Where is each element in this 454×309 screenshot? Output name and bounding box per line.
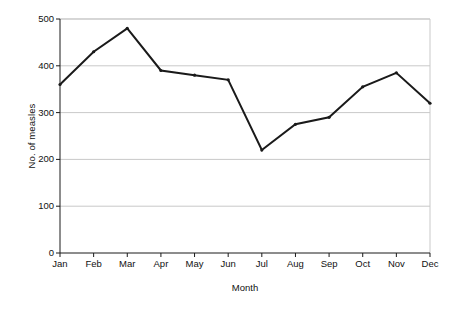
x-axis-tick-labels: JanFebMarAprMayJunJulAugSepOctNovDec [60, 258, 430, 272]
x-tick-label-jan: Jan [52, 258, 67, 270]
data-point-sep [327, 116, 330, 119]
x-tick-label-mar: Mar [119, 258, 135, 270]
data-point-jun [227, 78, 230, 81]
data-line-measles [60, 28, 430, 150]
x-tick-label-jul: Jul [256, 258, 268, 270]
x-tick-label-feb: Feb [85, 258, 101, 270]
data-point-feb [92, 50, 95, 53]
x-tick-label-sep: Sep [321, 258, 338, 270]
x-tick-label-nov: Nov [388, 258, 405, 270]
x-tick-label-jun: Jun [221, 258, 236, 270]
data-point-may [193, 74, 196, 77]
data-point-dec [428, 102, 431, 105]
data-point-mar [126, 27, 129, 30]
data-point-aug [294, 123, 297, 126]
data-point-jul [260, 148, 263, 151]
x-axis-title: Month [60, 282, 430, 293]
line-chart-figure: No. of measles 0100200300400500 JanFebMa… [0, 0, 454, 309]
x-tick-label-may: May [186, 258, 204, 270]
data-point-nov [395, 71, 398, 74]
x-tick-label-oct: Oct [355, 258, 370, 270]
data-point-oct [361, 85, 364, 88]
x-tick-label-aug: Aug [287, 258, 304, 270]
x-tick-label-dec: Dec [422, 258, 439, 270]
x-tick-label-apr: Apr [154, 258, 169, 270]
data-point-apr [159, 69, 162, 72]
data-point-jan [58, 83, 61, 86]
